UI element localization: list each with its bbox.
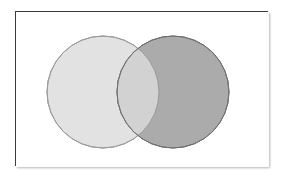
diagram-border	[15, 11, 268, 166]
figure-root	[0, 0, 282, 180]
venn-diagram-canvas	[16, 12, 269, 167]
